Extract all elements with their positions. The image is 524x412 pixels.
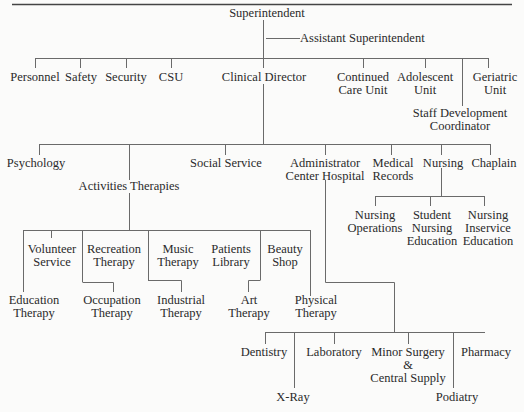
node-assistant-superintendent: Assistant Superintendent: [300, 32, 425, 45]
node-label-line: Therapy: [157, 256, 199, 269]
node-superintendent: Superintendent: [229, 7, 305, 20]
node-psychology: Psychology: [7, 157, 65, 170]
node-label-line: Therapy: [295, 307, 337, 320]
node-label-line: Therapy: [93, 256, 135, 269]
node-social-service: Social Service: [190, 157, 262, 170]
node-nursing: Nursing: [423, 157, 463, 170]
node-label-line: Education: [463, 235, 514, 248]
node-laboratory: Laboratory: [306, 346, 362, 359]
node-clinical-director: Clinical Director: [222, 71, 306, 84]
node-label-line: Care Unit: [339, 84, 388, 97]
node-label-line: Unit: [484, 84, 506, 97]
node-label-line: Records: [373, 170, 414, 183]
node-label-line: Shop: [272, 256, 298, 269]
node-dentistry: Dentistry: [241, 346, 288, 359]
node-podiatry: Podiatry: [436, 391, 478, 404]
node-personnel: Personnel: [10, 71, 59, 84]
org-chart: Superintendent Assistant Superintendent …: [0, 0, 524, 412]
node-label-line: Therapy: [91, 307, 133, 320]
node-security: Security: [105, 71, 147, 84]
node-label-line: Center Hospital: [286, 170, 365, 183]
node-label-line: Central Supply: [370, 372, 445, 385]
node-csu: CSU: [159, 71, 183, 84]
node-activities-therapies: Activities Therapies: [79, 180, 180, 193]
node-x-ray: X-Ray: [276, 391, 309, 404]
node-label-line: Operations: [348, 222, 403, 235]
node-label-line: Education: [407, 235, 458, 248]
node-safety: Safety: [65, 71, 97, 84]
node-label-line: Library: [212, 256, 249, 269]
node-pharmacy: Pharmacy: [461, 346, 511, 359]
node-chaplain: Chaplain: [471, 157, 516, 170]
node-label-line: Unit: [414, 84, 436, 97]
node-label-line: Service: [33, 256, 70, 269]
node-label-line: Therapy: [13, 307, 55, 320]
node-label-line: Therapy: [160, 307, 202, 320]
node-label-line: Coordinator: [430, 120, 490, 133]
node-label-line: Therapy: [228, 307, 270, 320]
